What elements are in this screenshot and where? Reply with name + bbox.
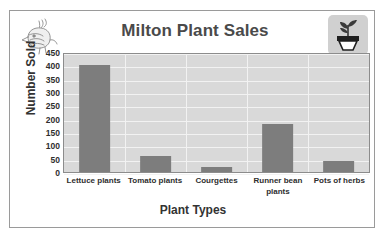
y-tick-label: 50: [32, 155, 60, 164]
bar-slot: [125, 54, 186, 172]
x-axis-tick-labels: Lettuce plantsTomato plantsCourgettesRun…: [63, 176, 370, 197]
y-tick-label: 400: [32, 62, 60, 71]
bar: [201, 167, 233, 172]
bar: [262, 124, 294, 172]
bar-series: [64, 54, 369, 172]
y-tick-label: 300: [32, 89, 60, 98]
y-axis-tick-labels: 050100150200250300350400450: [32, 53, 60, 173]
y-tick-label: 0: [32, 169, 60, 178]
bar: [79, 65, 111, 172]
clipped-header-text: [0, 0, 385, 9]
x-axis-label: Plant Types: [10, 203, 376, 217]
bar-slot: [64, 54, 125, 172]
x-tick-label: Courgettes: [186, 176, 247, 197]
plot-area: [63, 53, 370, 173]
y-tick-label: 150: [32, 129, 60, 138]
x-tick-label: Pots of herbs: [309, 176, 370, 197]
y-tick-label: 100: [32, 142, 60, 151]
y-tick-label: 450: [32, 49, 60, 58]
bar-slot: [308, 54, 369, 172]
chart-title: Milton Plant Sales: [66, 21, 324, 41]
bar: [323, 161, 355, 172]
x-tick-label: Lettuce plants: [63, 176, 124, 197]
y-tick-label: 200: [32, 115, 60, 124]
potted-plant-icon: [328, 15, 368, 55]
gridline: [64, 174, 369, 175]
bar-slot: [186, 54, 247, 172]
x-tick-label: Tomato plants: [124, 176, 185, 197]
bar-slot: [247, 54, 308, 172]
y-tick-label: 350: [32, 75, 60, 84]
y-tick-label: 250: [32, 102, 60, 111]
chart-figure-frame: Milton Plant Sales Number Sold 050100150…: [9, 10, 375, 228]
bar: [140, 156, 172, 172]
x-tick-label: Runner bean plants: [247, 176, 308, 197]
